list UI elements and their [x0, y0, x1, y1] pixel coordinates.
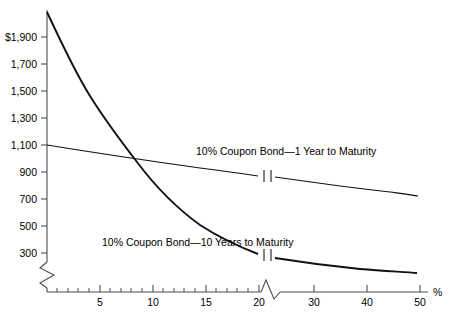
- y-tick-label-500: 500: [19, 220, 37, 232]
- x-tick-label-10: 10: [147, 296, 159, 308]
- y-axis-break-icon: [40, 262, 54, 288]
- y-tick-label-1100: 1,100: [11, 139, 37, 151]
- x-tick-label-40: 40: [361, 296, 373, 308]
- ten-year-curve-left: [47, 12, 258, 254]
- x-tick-label-20: 20: [253, 296, 265, 308]
- y-axis-group: $1,900 1,700 1,500 1,300 1,100 900 700 5…: [5, 10, 54, 292]
- y-tick-label-700: 700: [19, 193, 37, 205]
- y-tick-label-300: 300: [19, 247, 37, 259]
- y-tick-label-1700: 1,700: [11, 58, 37, 70]
- bond-price-interest-rate-chart: $1,900 1,700 1,500 1,300 1,100 900 700 5…: [0, 0, 457, 314]
- x-axis-unit-label: %: [433, 286, 442, 298]
- chart-svg: $1,900 1,700 1,500 1,300 1,100 900 700 5…: [0, 0, 457, 314]
- x-axis-group: 5 10 15 20 30 40 50 %: [47, 280, 442, 308]
- x-tick-label-5: 5: [97, 296, 103, 308]
- x-tick-label-30: 30: [308, 296, 320, 308]
- y-tick-label-900: 900: [19, 166, 37, 178]
- y-tick-label-1900: $1,900: [5, 31, 37, 43]
- annotation-one-year-bond: 10% Coupon Bond—1 Year to Maturity: [196, 145, 377, 157]
- y-tick-label-1300: 1,300: [11, 112, 37, 124]
- one-year-curve-break-marker: [264, 170, 271, 182]
- y-tick-label-1500: 1,500: [11, 85, 37, 97]
- x-tick-label-15: 15: [200, 296, 212, 308]
- one-year-curve-right: [275, 177, 418, 196]
- x-tick-label-50: 50: [414, 296, 426, 308]
- ten-year-curve-break-marker: [264, 249, 271, 261]
- annotation-ten-year-bond: 10% Coupon Bond—10 Years to Maturity: [102, 236, 294, 248]
- ten-year-curve-right: [275, 258, 417, 273]
- series-ten-year-bond: [47, 12, 417, 273]
